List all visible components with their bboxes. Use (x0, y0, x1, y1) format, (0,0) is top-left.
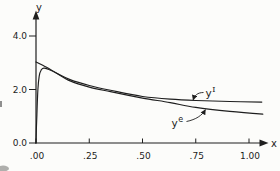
tick-layer: .00.25.50.751.000.02.04.0 (13, 31, 261, 161)
scan-artifacts (0, 101, 9, 171)
curve-label-ye-sup: e (178, 115, 183, 124)
leader-arrow-yI-icon (193, 93, 203, 100)
y-tick-label: 4.0 (13, 31, 28, 41)
y-axis-label: y (36, 2, 42, 13)
annotation-yI: yI (193, 85, 215, 100)
curve-label-ye: ye (172, 115, 184, 129)
x-axis-label: x (271, 138, 277, 149)
curve-label-ye-base: y (172, 117, 178, 129)
leader-arrow-ye-icon (187, 110, 206, 122)
x-axis-arrow-icon (260, 140, 269, 147)
plot-svg: .00.25.50.751.000.02.04.0 y x yI ye (0, 0, 280, 171)
y-tick-label: 0.0 (13, 138, 28, 148)
x-tick-label: .25 (83, 151, 97, 161)
x-tick-label: .50 (136, 151, 151, 161)
x-tick-label: .00 (30, 151, 45, 161)
curve-yI (36, 62, 262, 102)
x-tick-label: .75 (190, 151, 204, 161)
curve-label-yI-sup: I (212, 85, 215, 94)
curve-label-yI-base: y (206, 87, 212, 99)
curve-label-yI: yI (206, 85, 216, 99)
y-tick-label: 2.0 (13, 85, 28, 95)
annotation-ye: ye (172, 110, 206, 129)
chart: .00.25.50.751.000.02.04.0 y x yI ye (0, 0, 280, 171)
x-tick-label: 1.00 (240, 151, 260, 161)
